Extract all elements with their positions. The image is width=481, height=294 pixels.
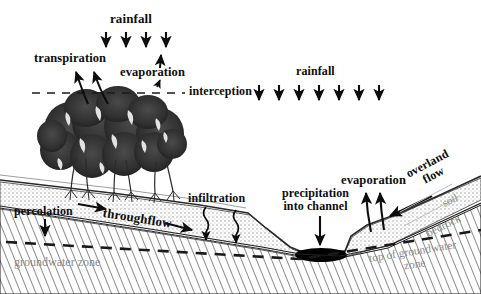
rainfall-right-arrows [259, 85, 379, 100]
precipitation-line-2: into channel [282, 200, 349, 213]
rainfall-left-arrows [106, 32, 166, 47]
label-precipitation-into-channel: precipitation into channel [282, 187, 349, 214]
label-evaporation-trees: evaporation [120, 65, 185, 79]
label-evaporation-channel: evaporation [341, 173, 406, 187]
label-interception: interception [189, 85, 252, 98]
hydrological-cycle-diagram: rainfall rainfall transpiration evaporat… [0, 0, 481, 294]
label-percolation: percolation [14, 205, 73, 218]
label-rainfall-left: rainfall [110, 12, 152, 27]
label-groundwater-zone: groundwater zone [14, 256, 100, 269]
label-infiltration: infiltration [188, 192, 245, 205]
label-transpiration: transpiration [34, 51, 106, 65]
tree-canopy-cluster [37, 86, 187, 178]
precipitation-line-1: precipitation [282, 187, 349, 200]
label-rainfall-right: rainfall [296, 65, 335, 78]
